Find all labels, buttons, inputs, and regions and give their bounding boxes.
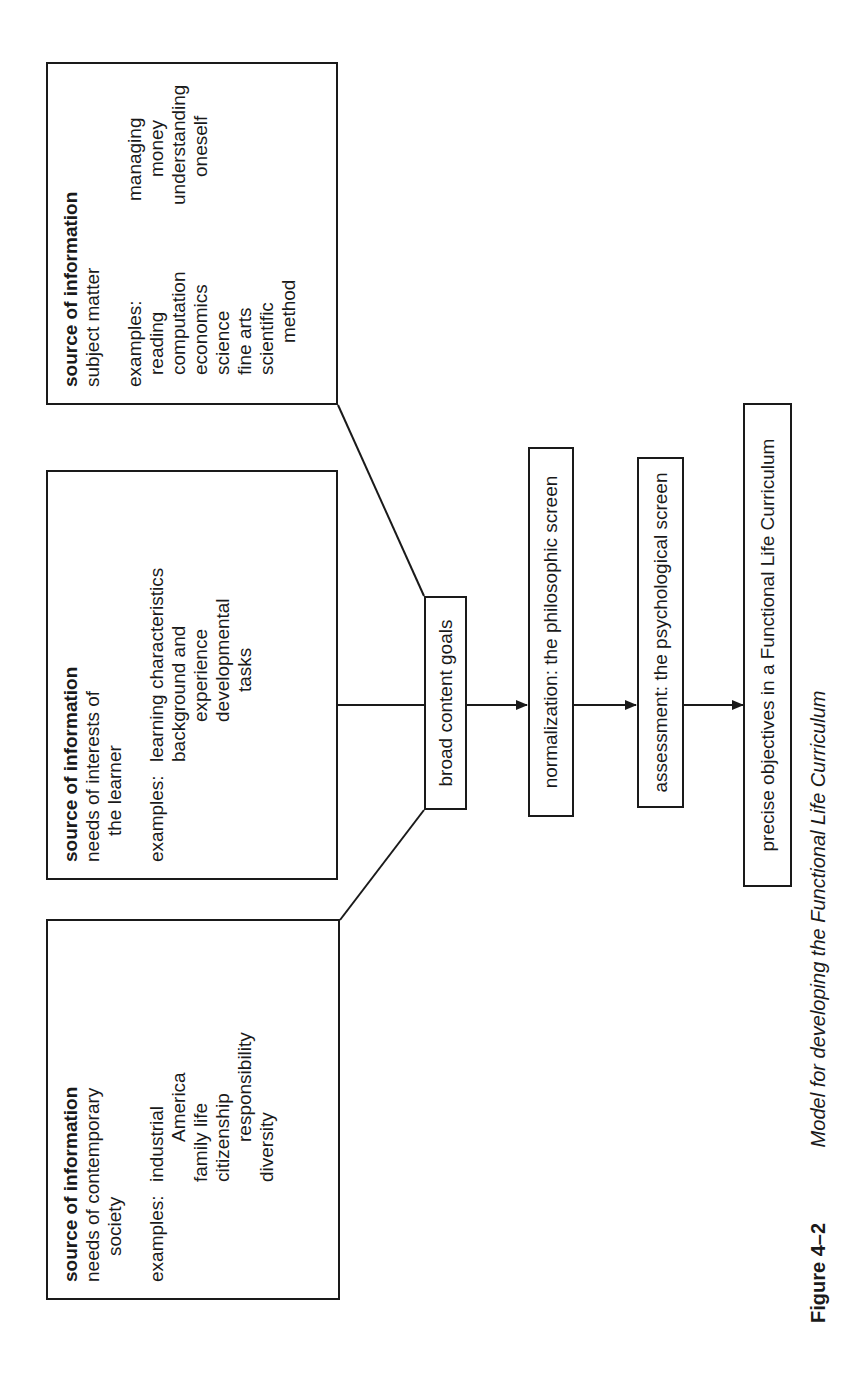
example-item: scientific: [256, 205, 278, 375]
source-heading: source of information: [60, 488, 82, 862]
source-subtitle: subject matter: [82, 80, 104, 387]
example-item: experience: [190, 488, 212, 762]
example-item: economics: [190, 205, 212, 375]
source-subtitle: needs of contemporary: [82, 937, 104, 1282]
example-item: science: [212, 205, 234, 375]
step-broad-content-goals: broad content goals: [424, 596, 467, 810]
figure-title: Model for developing the Functional Life…: [807, 690, 829, 1147]
example-item: reading: [146, 205, 168, 375]
connector-society: [340, 810, 424, 920]
examples-label: examples:: [146, 762, 256, 862]
example-item: developmental: [212, 488, 234, 762]
source-box-society: source of information needs of contempor…: [46, 919, 340, 1300]
source-box-learner: source of information needs of interests…: [46, 470, 338, 880]
example-item: tasks: [234, 488, 256, 762]
example-item: oneself: [190, 85, 212, 205]
figure-caption: Figure 4–2 Model for developing the Func…: [807, 690, 830, 1323]
example-item: responsibility: [234, 937, 256, 1182]
figure-number: Figure 4–2: [807, 1223, 829, 1323]
example-item: learning characteristics: [146, 488, 168, 762]
examples-label: examples:: [146, 1182, 278, 1282]
example-item: method: [278, 205, 300, 375]
source-heading: source of information: [60, 80, 82, 387]
step-normalization: normalization: the philosophic screen: [528, 447, 574, 817]
example-item: industrial: [146, 937, 168, 1182]
step-label: normalization: the philosophic screen: [540, 476, 562, 789]
example-item: citizenship: [212, 937, 234, 1182]
step-assessment: assessment: the psychological screen: [637, 457, 684, 808]
source-subtitle: the learner: [104, 488, 126, 862]
example-item: diversity: [256, 937, 278, 1182]
source-subtitle: society: [104, 937, 126, 1282]
example-item: fine arts: [234, 205, 256, 375]
example-item: background and: [168, 488, 190, 762]
connector-subject: [338, 405, 424, 596]
example-item: money: [146, 85, 168, 205]
step-label: precise objectives in a Functional Life …: [757, 439, 779, 852]
example-item: family life: [190, 937, 212, 1182]
step-label: assessment: the psychological screen: [650, 473, 672, 793]
source-heading: source of information: [60, 937, 82, 1282]
source-box-subject: source of information subject matter exa…: [46, 62, 338, 405]
example-item: computation: [168, 205, 190, 375]
example-item: understanding: [168, 85, 190, 205]
example-item: America: [168, 937, 190, 1182]
step-precise-objectives: precise objectives in a Functional Life …: [743, 403, 792, 887]
step-label: broad content goals: [435, 620, 457, 787]
example-item: managing: [124, 85, 146, 205]
source-subtitle: needs of interests of: [82, 488, 104, 862]
diagram-frame: source of information needs of contempor…: [0, 0, 850, 1373]
